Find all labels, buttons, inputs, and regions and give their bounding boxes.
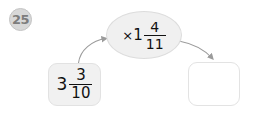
problem-number-badge: 25	[9, 8, 32, 31]
curved-arrow-down-right-icon	[179, 41, 213, 59]
curved-arrow-up-right-icon	[79, 39, 107, 64]
problem-number-label: 25	[12, 13, 29, 26]
operation-expression: × 1 4 11	[122, 20, 165, 51]
multiply-icon: ×	[122, 29, 133, 42]
output-answer-box[interactable]	[188, 62, 240, 106]
worksheet-problem-canvas: 25 3 3 10 × 1 4 11	[0, 0, 254, 127]
input-whole-number: 3	[57, 76, 68, 93]
operation-whole-number: 1	[133, 28, 143, 43]
input-fraction: 3 10	[69, 68, 92, 101]
operation-denominator: 11	[144, 36, 166, 51]
input-denominator: 10	[69, 85, 92, 101]
input-mixed-number: 3 3 10	[57, 68, 93, 101]
operation-fraction: 4 11	[144, 20, 166, 51]
operation-oval: × 1 4 11	[106, 11, 182, 59]
input-value-box: 3 3 10	[48, 63, 101, 106]
operation-numerator: 4	[148, 20, 161, 35]
input-numerator: 3	[74, 68, 88, 84]
